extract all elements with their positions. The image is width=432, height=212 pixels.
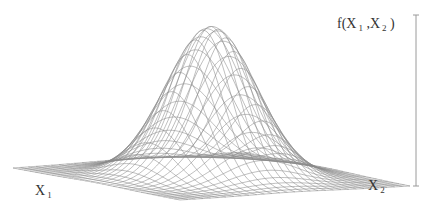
mesh-line <box>82 111 249 196</box>
mesh-line <box>166 87 333 190</box>
x2-axis-label: X2 <box>368 178 385 195</box>
mesh-line <box>120 30 287 192</box>
mesh-line <box>136 29 303 191</box>
mesh-line <box>97 72 264 194</box>
mesh-line <box>147 160 377 193</box>
z-axis-label: f(X1 ,X2 ) <box>337 16 395 33</box>
x1-axis-label: X1 <box>35 183 52 200</box>
wireframe-mesh <box>13 27 410 200</box>
mesh-line <box>58 117 288 176</box>
mesh-line <box>143 38 310 191</box>
